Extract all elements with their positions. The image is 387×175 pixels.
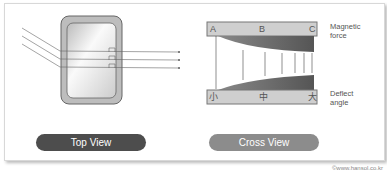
label-b: B [259, 25, 265, 34]
top-view-button[interactable]: Top View [36, 134, 146, 151]
magnetic-force-line1: Magnetic [330, 22, 360, 31]
magnetic-force-line2: force [330, 31, 360, 40]
lower-force-shape [218, 75, 314, 90]
deflect-angle-label: Deflect angle [330, 89, 353, 107]
beam-endpoints [178, 51, 180, 69]
label-a: A [210, 25, 216, 34]
magnetic-force-label: Magnetic force [330, 22, 360, 40]
deflect-line1: Deflect [330, 89, 353, 98]
label-medium: 中 [259, 93, 268, 102]
watermark: ©www.hansol.co.kr [332, 165, 383, 171]
cross-view-button[interactable]: Cross View [209, 134, 319, 151]
upper-force-shape [218, 36, 314, 52]
label-small: 小 [209, 93, 218, 102]
deflect-line2: angle [330, 98, 353, 107]
label-c: C [309, 25, 316, 34]
magnet-inner [67, 23, 116, 98]
label-large: 大 [308, 93, 317, 102]
